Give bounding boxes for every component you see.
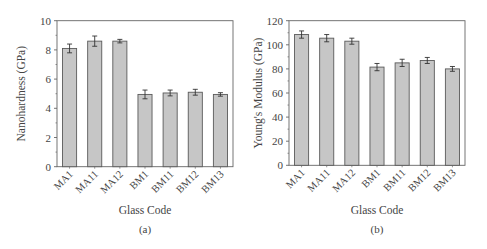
- bar-bm1: [138, 94, 152, 166]
- x-tick-label: MA11: [305, 167, 332, 194]
- bar-ma12: [345, 41, 359, 165]
- panel-label: (a): [139, 223, 152, 236]
- figure: 0246810MA1MA11MA12BM1BM11BM12BM13Nanohar…: [0, 0, 487, 249]
- x-tick-label: BM11: [149, 168, 175, 194]
- x-tick-label: BM12: [174, 168, 201, 195]
- bar-bm1: [370, 67, 384, 165]
- x-tick-label: BM13: [199, 168, 226, 195]
- bar-bm11: [395, 63, 409, 165]
- y-tick-label: 0: [278, 159, 284, 171]
- bar-bm13: [213, 94, 227, 166]
- y-tick-label: 80: [272, 63, 284, 75]
- x-tick-label: MA11: [73, 168, 100, 195]
- x-tick-label: BM1: [359, 167, 382, 190]
- y-tick-label: 120: [267, 15, 284, 27]
- bar-ma1: [295, 35, 309, 166]
- x-tick-label: MA12: [98, 168, 125, 195]
- x-tick-label: BM13: [431, 167, 458, 194]
- y-tick-label: 20: [272, 135, 284, 147]
- y-tick-label: 10: [40, 15, 52, 27]
- y-axis-title: Young's Modulus (GPa): [252, 37, 265, 148]
- y-tick-label: 6: [46, 73, 52, 85]
- y-tick-label: 4: [46, 102, 52, 114]
- x-tick-label: MA12: [330, 167, 357, 194]
- x-axis-title: Glass Code: [351, 204, 404, 216]
- y-axis-title: Nanohardness (GPa): [15, 46, 28, 142]
- y-tick-label: 8: [46, 44, 52, 56]
- bar-ma11: [320, 38, 334, 165]
- y-tick-label: 2: [46, 132, 52, 144]
- bar-bm12: [420, 60, 434, 165]
- y-tick-label: 40: [272, 111, 284, 123]
- y-tick-label: 100: [267, 39, 284, 51]
- bar-bm12: [188, 92, 202, 166]
- youngs-modulus-chart: 020406080100120MA1MA11MA12BM1BM11BM12BM1…: [252, 15, 465, 236]
- x-tick-label: BM12: [406, 167, 433, 194]
- bar-ma11: [88, 41, 102, 167]
- bar-bm13: [445, 69, 459, 165]
- y-tick-label: 0: [46, 161, 52, 173]
- x-tick-label: MA1: [52, 168, 75, 191]
- y-tick-label: 60: [272, 87, 284, 99]
- bar-ma12: [113, 41, 127, 167]
- x-axis-title: Glass Code: [119, 204, 172, 216]
- x-tick-label: MA1: [284, 167, 307, 190]
- x-tick-label: BM11: [381, 167, 407, 193]
- bar-bm11: [163, 93, 177, 167]
- nanohardness-chart: 0246810MA1MA11MA12BM1BM11BM12BM13Nanohar…: [15, 15, 233, 236]
- bar-ma1: [63, 48, 77, 166]
- panel-label: (b): [371, 223, 384, 236]
- x-tick-label: BM1: [127, 168, 150, 191]
